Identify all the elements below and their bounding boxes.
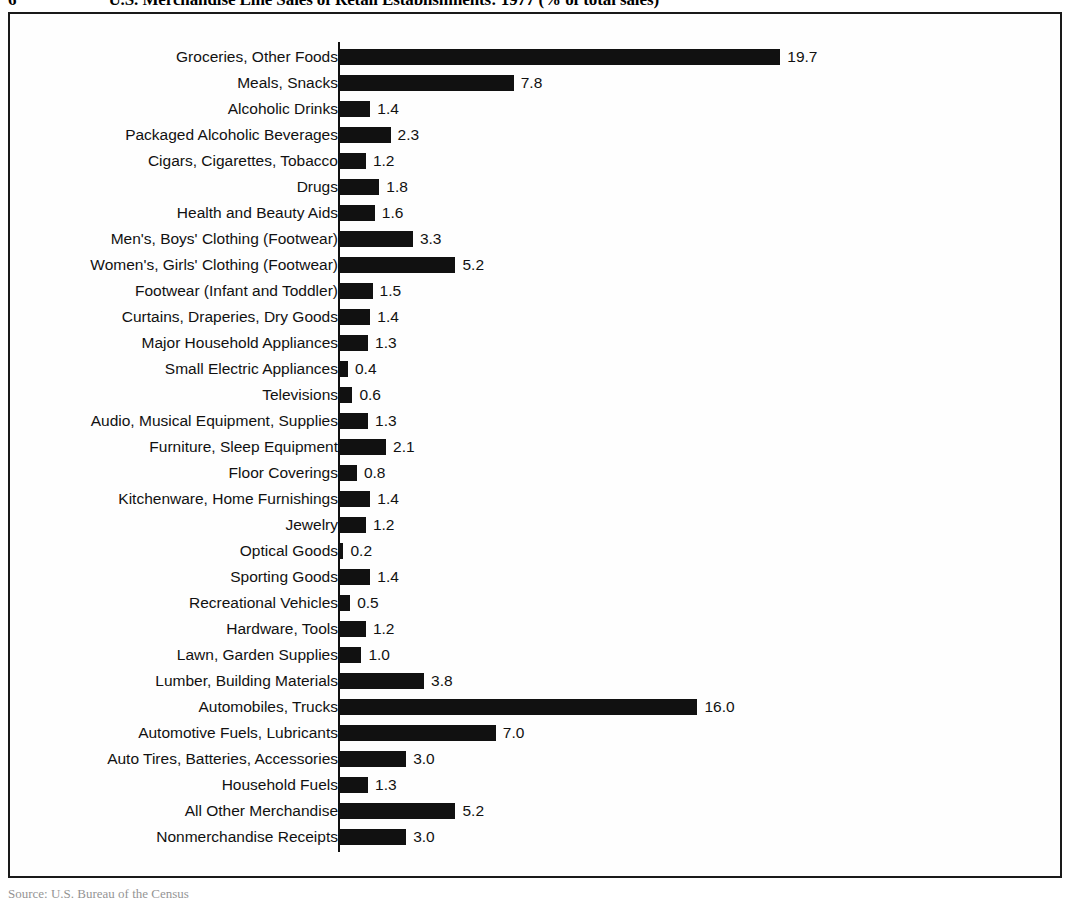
bar	[339, 179, 379, 195]
bar	[339, 439, 386, 455]
bar-row: Jewelry1.2	[10, 512, 1060, 538]
category-label: Household Fuels	[222, 772, 338, 798]
bar-row: Cigars, Cigarettes, Tobacco1.2	[10, 148, 1060, 174]
bar	[339, 413, 368, 429]
bar-row: Small Electric Appliances0.4	[10, 356, 1060, 382]
category-label: Lawn, Garden Supplies	[177, 642, 338, 668]
bar-value-label: 16.0	[704, 694, 734, 720]
bar-value-label: 1.3	[375, 330, 397, 356]
bar	[339, 387, 352, 403]
category-label: Furniture, Sleep Equipment	[149, 434, 338, 460]
bar	[339, 673, 424, 689]
bar-row: Automotive Fuels, Lubricants7.0	[10, 720, 1060, 746]
category-label: Auto Tires, Batteries, Accessories	[107, 746, 338, 772]
bar-value-label: 7.0	[503, 720, 525, 746]
category-label: Recreational Vehicles	[189, 590, 338, 616]
bar	[339, 231, 413, 247]
bar-row: Meals, Snacks7.8	[10, 70, 1060, 96]
source-note: Source: U.S. Bureau of the Census	[8, 888, 608, 902]
bar-value-label: 1.2	[373, 512, 395, 538]
category-label: Health and Beauty Aids	[177, 200, 338, 226]
bar-row: Packaged Alcoholic Beverages2.3	[10, 122, 1060, 148]
category-label: Sporting Goods	[230, 564, 338, 590]
bar-value-label: 19.7	[787, 44, 817, 70]
category-label: Cigars, Cigarettes, Tobacco	[148, 148, 338, 174]
bar	[339, 49, 780, 65]
category-label: Small Electric Appliances	[165, 356, 338, 382]
category-label: Groceries, Other Foods	[176, 44, 338, 70]
bar-row: Furniture, Sleep Equipment2.1	[10, 434, 1060, 460]
bar-value-label: 0.4	[355, 356, 377, 382]
bar	[339, 335, 368, 351]
bar	[339, 465, 357, 481]
category-label: Footwear (Infant and Toddler)	[135, 278, 338, 304]
category-label: Drugs	[297, 174, 338, 200]
bar	[339, 647, 361, 663]
bar	[339, 127, 391, 143]
bar-value-label: 0.8	[364, 460, 386, 486]
bar-value-label: 3.3	[420, 226, 442, 252]
bar	[339, 283, 373, 299]
bar-row: Footwear (Infant and Toddler)1.5	[10, 278, 1060, 304]
category-label: Women's, Girls' Clothing (Footwear)	[90, 252, 338, 278]
bar-value-label: 1.4	[377, 486, 399, 512]
category-label: Nonmerchandise Receipts	[156, 824, 338, 850]
bar	[339, 699, 697, 715]
bar-row: All Other Merchandise5.2	[10, 798, 1060, 824]
bar-value-label: 1.5	[380, 278, 402, 304]
bar	[339, 725, 496, 741]
bar	[339, 205, 375, 221]
bar-row: Lumber, Building Materials3.8	[10, 668, 1060, 694]
category-label: Floor Coverings	[229, 460, 338, 486]
category-label: Optical Goods	[240, 538, 338, 564]
bar-row: Groceries, Other Foods19.7	[10, 44, 1060, 70]
bar-value-label: 2.1	[393, 434, 415, 460]
category-label: Automotive Fuels, Lubricants	[138, 720, 338, 746]
bar-value-label: 0.2	[350, 538, 372, 564]
bar-value-label: 1.0	[368, 642, 390, 668]
bar	[339, 543, 343, 559]
bar-row: Alcoholic Drinks1.4	[10, 96, 1060, 122]
bar-row: Household Fuels1.3	[10, 772, 1060, 798]
category-label: Hardware, Tools	[226, 616, 338, 642]
bar-row: Kitchenware, Home Furnishings1.4	[10, 486, 1060, 512]
chart-frame: Groceries, Other Foods19.7Meals, Snacks7…	[8, 12, 1062, 878]
bar	[339, 803, 455, 819]
category-label: Major Household Appliances	[142, 330, 338, 356]
bar-value-label: 7.8	[521, 70, 543, 96]
category-label: Packaged Alcoholic Beverages	[125, 122, 338, 148]
category-label: Jewelry	[285, 512, 338, 538]
bar-row: Audio, Musical Equipment, Supplies1.3	[10, 408, 1060, 434]
bar-row: Nonmerchandise Receipts3.0	[10, 824, 1060, 850]
bar	[339, 621, 366, 637]
figure-title: U.S. Merchandise Line Sales of Retail Es…	[108, 0, 659, 9]
bar-row: Men's, Boys' Clothing (Footwear)3.3	[10, 226, 1060, 252]
bar-value-label: 1.4	[377, 96, 399, 122]
figure-number: 6	[8, 0, 16, 10]
bar-value-label: 1.6	[382, 200, 404, 226]
bar-value-label: 2.3	[398, 122, 420, 148]
bar-row: Automobiles, Trucks16.0	[10, 694, 1060, 720]
bar	[339, 751, 406, 767]
category-label: Televisions	[262, 382, 338, 408]
bar-row: Curtains, Draperies, Dry Goods1.4	[10, 304, 1060, 330]
bar-value-label: 1.4	[377, 304, 399, 330]
category-label: Lumber, Building Materials	[155, 668, 338, 694]
category-label: Audio, Musical Equipment, Supplies	[91, 408, 338, 434]
category-label: Automobiles, Trucks	[198, 694, 338, 720]
bar-value-label: 1.2	[373, 148, 395, 174]
bar-row: Major Household Appliances1.3	[10, 330, 1060, 356]
bar	[339, 75, 514, 91]
bar-value-label: 3.0	[413, 746, 435, 772]
bar	[339, 153, 366, 169]
bar-row: Sporting Goods1.4	[10, 564, 1060, 590]
bar-row: Lawn, Garden Supplies1.0	[10, 642, 1060, 668]
bar	[339, 777, 368, 793]
bar	[339, 517, 366, 533]
bar-value-label: 5.2	[462, 798, 484, 824]
bar-value-label: 5.2	[462, 252, 484, 278]
bar-value-label: 1.2	[373, 616, 395, 642]
figure-caption: 6U.S. Merchandise Line Sales of Retail E…	[0, 0, 1077, 11]
bar-row: Auto Tires, Batteries, Accessories3.0	[10, 746, 1060, 772]
category-label: Curtains, Draperies, Dry Goods	[122, 304, 338, 330]
